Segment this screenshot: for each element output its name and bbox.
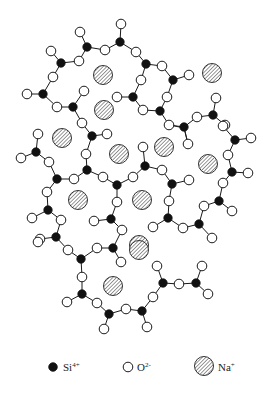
oxygen-atom-icon (69, 174, 79, 184)
oxygen-atom-icon (79, 86, 89, 96)
sodium-ion-icon (95, 101, 114, 120)
silicon-atom-icon (138, 307, 146, 315)
oxygen-atom-icon (148, 222, 158, 232)
silicon-atom-icon (141, 162, 149, 170)
oxygen-atom-icon (92, 243, 102, 253)
sodium-ion-icon (110, 145, 129, 164)
oxygen-atom-icon (75, 27, 85, 37)
silicon-atom-icon (32, 148, 40, 156)
silicon-atom-icon (164, 214, 172, 222)
silicon-atom-icon (83, 166, 91, 174)
oxygen-atom-icon (174, 279, 184, 289)
oxygen-atom-icon (48, 72, 58, 82)
oxygen-atom-icon (197, 261, 207, 271)
oxygen-atom-icon (52, 102, 62, 112)
silicon-atom-icon (107, 215, 115, 223)
oxygen-atom-icon (117, 225, 127, 235)
sodium-ion-icon (104, 277, 123, 296)
sodium-ion-icon (53, 129, 72, 148)
oxygen-atom-icon (164, 196, 174, 206)
silicon-atom-icon (156, 107, 164, 115)
oxygen-atom-icon (164, 120, 174, 130)
legend-charge-na: + (231, 361, 235, 369)
oxygen-atom-icon (77, 272, 87, 282)
silicon-atom-icon (195, 220, 203, 228)
silicon-atom-icon (44, 206, 52, 214)
oxygen-atom-icon (16, 153, 26, 163)
oxygen-atom-icon (152, 261, 162, 271)
oxygen-atom-icon (112, 197, 122, 207)
legend-charge-o: 2- (145, 361, 152, 369)
oxygen-atom-icon (246, 133, 256, 143)
filled-circle-icon (49, 363, 58, 372)
oxygen-atom-icon (183, 139, 193, 149)
oxygen-atom-icon (99, 324, 109, 334)
silicon-atom-icon (113, 181, 121, 189)
oxygen-atom-icon (121, 304, 131, 314)
silicon-atom-icon (105, 310, 113, 318)
oxygen-atom-icon (218, 178, 228, 188)
silicon-atom-icon (228, 168, 236, 176)
silicon-atom-icon (129, 93, 137, 101)
oxygen-atom-icon (184, 70, 194, 80)
oxygen-atom-icon (102, 129, 112, 139)
oxygen-atom-icon (22, 89, 32, 99)
oxygen-atom-icon (74, 56, 84, 66)
silicon-atom-icon (69, 103, 77, 111)
silicon-atom-icon (88, 132, 96, 140)
silicon-atom-icon (168, 180, 176, 188)
silicon-atom-icon (116, 38, 124, 46)
silicon-atom-icon (192, 279, 200, 287)
oxygen-atom-icon (223, 150, 233, 160)
oxygen-atom-icon (128, 172, 138, 182)
silicon-atom-icon (39, 90, 47, 98)
sodium-ion-icon (155, 138, 174, 157)
sodium-ion-icon (203, 64, 222, 83)
oxygen-atom-icon (142, 322, 152, 332)
oxygen-atom-icon (62, 297, 72, 307)
oxygen-atom-icon (157, 61, 167, 71)
oxygen-atom-icon (116, 19, 126, 29)
silicon-atom-icon (180, 123, 188, 131)
oxygen-atom-icon (131, 47, 141, 57)
svg-text:O2-: O2- (137, 361, 151, 373)
legend: Si4+ O2- Na+ (49, 357, 235, 376)
oxygen-atom-icon (33, 129, 43, 139)
oxygen-atom-icon (243, 168, 253, 178)
oxygen-atom-icon (136, 75, 146, 85)
oxygen-atom-icon (148, 292, 158, 302)
oxygen-atom-icon (138, 142, 148, 152)
silicon-atom-icon (83, 43, 91, 51)
oxygen-atom-icon (92, 298, 102, 308)
silicon-atom-icon (169, 76, 177, 84)
oxygen-atom-icon (207, 233, 217, 243)
oxygen-atom-icon (157, 165, 167, 175)
silicon-atom-icon (52, 233, 60, 241)
silicon-atom-icon (109, 244, 117, 252)
oxygen-atoms-layer (16, 19, 256, 334)
silicon-atom-icon (231, 136, 239, 144)
oxygen-atom-icon (42, 187, 52, 197)
silicon-atom-icon (77, 255, 85, 263)
sodium-ion-icon (69, 191, 88, 210)
oxygen-atom-icon (98, 172, 108, 182)
oxygen-atom-icon (89, 216, 99, 226)
oxygen-atom-icon (33, 237, 43, 247)
oxygen-atom-icon (199, 201, 209, 211)
oxygen-atom-icon (162, 92, 172, 102)
legend-label-si: Si (63, 361, 72, 373)
sodium-ion-icon (130, 241, 149, 260)
svg-text:Na+: Na+ (218, 361, 235, 373)
svg-text:Si4+: Si4+ (63, 361, 80, 373)
oxygen-atom-icon (192, 112, 202, 122)
legend-label-na: Na (218, 361, 231, 373)
oxygen-atom-icon (100, 45, 110, 55)
oxygen-atom-icon (81, 149, 91, 159)
oxygen-atom-icon (112, 92, 122, 102)
legend-label-o: O (137, 361, 145, 373)
legend-charge-si: 4+ (72, 361, 80, 369)
hatched-circle-icon (195, 357, 214, 376)
sodium-ion-icon (199, 155, 218, 174)
oxygen-atom-icon (203, 289, 213, 299)
silicon-atom-icon (142, 60, 150, 68)
